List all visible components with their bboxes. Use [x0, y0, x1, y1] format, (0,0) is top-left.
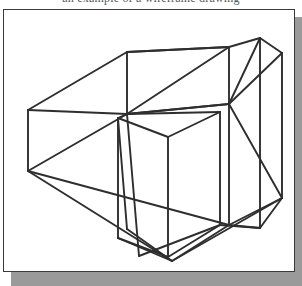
wireframe-drawing — [4, 10, 294, 271]
wireframe-edge-17 — [118, 118, 127, 229]
wireframe-edge-30 — [28, 171, 229, 225]
wireframe-edge-0 — [28, 47, 229, 110]
wireframe-edge-20 — [260, 38, 282, 53]
figure-caption: an example of a wireframe drawing — [0, 0, 302, 5]
wireframe-edge-12 — [118, 112, 220, 137]
wireframe-edge-23 — [229, 38, 260, 104]
wireframe-edge-26 — [229, 104, 282, 198]
page-root: an example of a wireframe drawing — [0, 0, 302, 286]
wireframe-edge-7 — [28, 171, 172, 261]
wireframe-edge-9 — [127, 47, 229, 114]
wireframe-edge-6 — [28, 114, 127, 171]
wireframe-edge-24 — [229, 53, 282, 104]
wireframe-edge-19 — [229, 38, 260, 47]
wireframe-edge-35 — [229, 198, 282, 225]
figure-frame — [3, 9, 295, 272]
wireframe-edge-5 — [127, 47, 229, 52]
